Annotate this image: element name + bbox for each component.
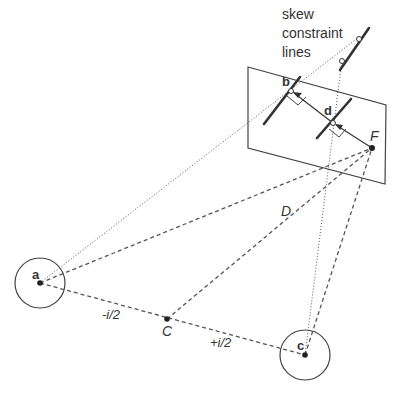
line-C-F <box>167 148 372 319</box>
line-a-F <box>40 148 372 283</box>
point-d-marker <box>331 121 336 126</box>
label-plus-half: +i/2 <box>210 335 232 350</box>
caption-line-3: lines <box>282 44 311 60</box>
skew-line-upper <box>340 28 369 70</box>
image-plane <box>248 67 386 184</box>
label-c: c <box>297 338 304 353</box>
caption-line-1: skew <box>282 6 315 22</box>
baseline-a-c <box>40 283 305 355</box>
point-c <box>302 352 308 358</box>
label-d: d <box>324 103 332 118</box>
label-a: a <box>32 267 40 282</box>
caption-line-2: constraint <box>282 25 343 41</box>
label-b: b <box>282 74 290 89</box>
label-minus-half: -i/2 <box>102 307 121 322</box>
point-F <box>369 145 375 151</box>
label-C: C <box>162 323 173 339</box>
ray-a-b <box>40 37 359 283</box>
line-c-F <box>305 148 372 355</box>
arrow-F-d <box>336 125 372 148</box>
point-C <box>164 316 170 322</box>
skew-point-2 <box>340 59 345 64</box>
label-F: F <box>370 128 380 144</box>
point-b-marker <box>289 89 294 94</box>
label-D: D <box>281 203 291 219</box>
diagram-canvas: skew constraint lines b d F D a c C -i/2… <box>0 0 404 395</box>
right-angle-b <box>287 96 306 105</box>
arrowhead-b <box>293 92 302 98</box>
skew-point-1 <box>357 37 362 42</box>
skew-line-d <box>317 99 351 138</box>
